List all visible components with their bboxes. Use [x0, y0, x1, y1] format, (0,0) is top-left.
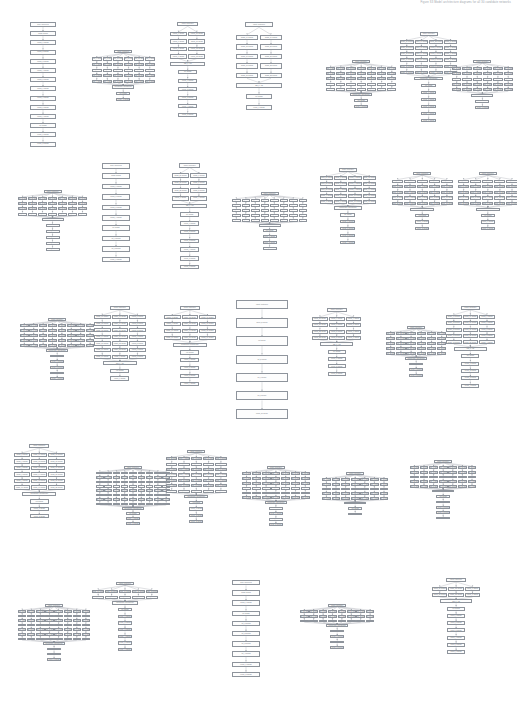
dense-node: dense_14: Dense: [64, 615, 72, 618]
tail-node: Model_2: Dense: [409, 374, 423, 377]
dense-node: dense_6: Dense: [427, 342, 436, 345]
tail-node: Model_4: Dense: [180, 382, 199, 386]
dense-node: dense_9: Dense: [14, 479, 30, 483]
dense-node: dense_14: Dense: [154, 503, 162, 506]
dense-node: dense_22: Dense: [473, 72, 482, 75]
merge-node: concatenate: Concatenate: [326, 624, 348, 627]
dense-node: dense_20: Dense: [458, 191, 469, 194]
dense-node: dense_1: Dense: [468, 485, 477, 488]
dense-node: dense_1: Dense: [92, 63, 102, 66]
layer-node: out_N: Dense: [236, 355, 288, 364]
dense-node: dense_12: Dense: [347, 615, 356, 618]
tail-node: Model_4: Dense: [178, 104, 198, 108]
dense-node: dense_7: Dense: [427, 347, 436, 350]
dense-node: dense_11: Dense: [178, 484, 189, 487]
dense-node: dense_3: Dense: [129, 328, 146, 332]
dense-node: dense_14: Dense: [346, 88, 355, 91]
dense-node: dense_16: Dense: [396, 347, 405, 350]
dense-node: dense_17: Dense: [299, 204, 308, 207]
dense-node: dense_15: Dense: [506, 185, 517, 188]
dense-node: dense_15: Dense: [58, 324, 67, 327]
dense-node: dense_17: Dense: [78, 197, 87, 200]
layer-node: Model_1: Dense: [102, 257, 130, 263]
model-diagram-d30: Input: InputLayerdense: Densedense_1: De…: [232, 580, 260, 682]
tail-node: Model_1: Dense: [30, 507, 49, 511]
dense-node: dense_12: Dense: [437, 347, 446, 350]
tail-node: out: Dense: [409, 363, 423, 366]
dense-node: dense_12: Dense: [188, 47, 205, 51]
dense-node: dense_17: Dense: [132, 596, 144, 599]
dense-node: dense_17: Dense: [341, 492, 350, 495]
dense-node: dense_13: Dense: [188, 54, 205, 58]
tail-node: Model_3: Dense: [330, 646, 344, 649]
merge-node: add_1: Add: [454, 347, 487, 351]
dense-node: dense_7: Dense: [280, 204, 289, 207]
dense-node: dense_17: Dense: [199, 322, 216, 326]
dense-node: dense_16: Dense: [363, 200, 376, 204]
layer-node: Input: InputLayer: [30, 22, 56, 27]
dense-node: dense_22: Dense: [138, 503, 146, 506]
tail-node: out: Dense: [189, 501, 203, 504]
dense-node: dense_3: Dense: [417, 352, 426, 355]
model-diagram-d21: Inputs: InputLayerdense_14: Densedense_1…: [446, 306, 495, 388]
input-layer-node: Inputs: InputLayer: [413, 172, 431, 175]
dense-node: dense_7: Dense: [178, 463, 189, 466]
tail-node: out: Dense: [330, 630, 344, 633]
dense-node: dense_19: Dense: [415, 52, 429, 56]
dense-node: dense_8: Dense: [14, 472, 30, 476]
input-layer-node: Inputs: InputLayer: [473, 60, 491, 63]
merge-node: concatenate: Concatenate: [122, 507, 144, 510]
dense-node: dense_18: Dense: [251, 214, 260, 217]
dense-node: dense_10: Dense: [92, 590, 104, 593]
merge-node: concatenate: Concatenate: [344, 502, 366, 505]
dense-node: dense_13: Dense: [94, 328, 111, 332]
tail-node: Model_1: Dense: [436, 501, 450, 504]
dense-node: dense_3: Dense: [146, 489, 154, 492]
dense-node: dense_3: Dense: [215, 457, 226, 460]
model-diagram-d23: Inputs: InputLayerdense_23: Densedense_0…: [96, 466, 170, 525]
dense-node: dense_16: Dense: [68, 213, 77, 216]
dense-node: dense_10: Dense: [332, 483, 341, 486]
dense-node: dense_16: Dense: [506, 191, 517, 194]
dense-node: dense_0: Dense: [470, 185, 481, 188]
dense-node: dense_13: Dense: [113, 74, 123, 77]
dense-node: dense_17: Dense: [251, 209, 260, 212]
dense-node: dense_15: Dense: [236, 44, 258, 49]
dense-node: dense_3: Dense: [326, 83, 335, 86]
tail-node: Model_1: Dense: [348, 513, 362, 516]
dense-node: dense_3: Dense: [329, 336, 345, 340]
dense-node: dense_2: Dense: [319, 610, 328, 613]
dense-node: dense_22: Dense: [262, 472, 271, 475]
dense-node: dense_2: Dense: [18, 610, 26, 613]
dense-node: dense_1: Dense: [73, 633, 81, 636]
dense-node: dense_17: Dense: [446, 334, 462, 338]
dense-node: dense_6: Dense: [103, 63, 113, 66]
tail-node: out: Dense: [421, 84, 437, 88]
figure-header: Figure S3 Model architecture diagrams fo…: [421, 1, 512, 4]
dense-node: dense_15: Dense: [357, 67, 366, 70]
dense-node: dense_5: Dense: [482, 185, 493, 188]
dense-node: dense_2: Dense: [146, 485, 154, 488]
dense-node: dense_12: Dense: [289, 204, 298, 207]
dense-node: dense_20: Dense: [36, 628, 44, 631]
dense-node: dense_19: Dense: [191, 490, 202, 493]
dense-node: dense_1: Dense: [145, 57, 155, 60]
dense-node: dense_5: Dense: [129, 341, 146, 345]
dense-node: dense_23: Dense: [448, 593, 463, 597]
dense-node: dense_15: Dense: [441, 191, 452, 194]
model-diagram-d22: Inputs: InputLayerdense_5: Densedense_6:…: [14, 444, 65, 519]
dense-node: dense_15: Dense: [400, 65, 414, 69]
layer-node: out_2: Dense: [236, 391, 288, 400]
dense-node: dense_2: Dense: [301, 492, 310, 495]
dense-node: dense_13: Dense: [242, 487, 251, 490]
dense-node: dense_9: Dense: [386, 337, 395, 340]
dense-node: dense_1: Dense: [129, 315, 146, 319]
input-layer-node: Inputs: InputLayer: [446, 578, 465, 582]
input-layer-node: Inputs: InputLayer: [177, 22, 198, 26]
dense-node: dense_23: Dense: [429, 40, 443, 44]
tail-node: Model_1: Dense: [354, 105, 368, 108]
dense-node: dense_7: Dense: [18, 633, 26, 636]
dense-node: dense_14: Dense: [281, 492, 290, 495]
dense-node: dense_6: Dense: [334, 200, 347, 204]
dense-node: dense_8: Dense: [48, 213, 57, 216]
